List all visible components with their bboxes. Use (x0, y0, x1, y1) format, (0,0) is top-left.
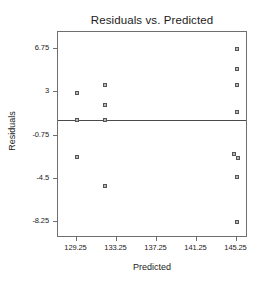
data-point (103, 118, 107, 122)
chart-title: Residuals vs. Predicted (57, 14, 247, 26)
data-point (235, 175, 239, 179)
data-point (75, 91, 79, 95)
data-point (235, 83, 239, 87)
y-tick-mark (53, 48, 57, 49)
data-point (236, 156, 240, 160)
x-tick-label: 133.25 (96, 243, 136, 252)
data-point (75, 155, 79, 159)
x-tick-mark (156, 237, 157, 241)
y-tick-label: -8.25 (13, 216, 49, 225)
y-tick-mark (53, 91, 57, 92)
data-point (103, 103, 107, 107)
data-point (235, 110, 239, 114)
x-axis-label: Predicted (57, 262, 247, 272)
x-tick-label: 145.25 (216, 243, 256, 252)
y-tick-mark (53, 221, 57, 222)
plot-canvas (58, 32, 246, 236)
x-tick-label: 141.25 (176, 243, 216, 252)
y-tick-mark (53, 178, 57, 179)
y-tick-label: -4.5 (13, 173, 49, 182)
y-tick-mark (53, 135, 57, 136)
x-tick-mark (76, 237, 77, 241)
x-tick-label: 129.25 (56, 243, 96, 252)
residual-plot-figure: Residuals vs. Predicted 6.753-0.75-4.5-8… (0, 0, 263, 290)
data-point (75, 118, 79, 122)
y-axis-label: Residuals (7, 96, 17, 166)
data-point (235, 67, 239, 71)
y-tick-label: 3 (13, 86, 49, 95)
data-point (103, 83, 107, 87)
data-point (235, 47, 239, 51)
x-tick-mark (236, 237, 237, 241)
y-tick-label: 6.75 (13, 43, 49, 52)
data-point (235, 220, 239, 224)
plot-area (57, 31, 247, 237)
x-tick-label: 137.25 (136, 243, 176, 252)
x-tick-mark (196, 237, 197, 241)
y-tick-label: -0.75 (13, 130, 49, 139)
data-point (103, 184, 107, 188)
zero-reference-line (58, 120, 246, 121)
x-tick-mark (116, 237, 117, 241)
